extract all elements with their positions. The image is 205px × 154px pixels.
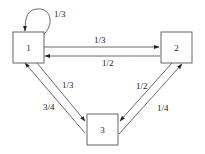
transition-diagram: 1/3 1/3 1/2 1/3 3/4 1/2 1/4 1 2 xyxy=(0,0,205,154)
node-3-label: 3 xyxy=(100,125,105,135)
node-1-label: 1 xyxy=(26,43,31,53)
self-loop-arrow xyxy=(25,9,50,35)
edge-label-1-3: 1/3 xyxy=(62,80,74,90)
edge-label-3-2: 1/4 xyxy=(157,103,169,113)
edge-label-1-2: 1/3 xyxy=(94,35,106,45)
edge-1-to-3: 1/3 xyxy=(37,63,85,121)
edge-1-to-2: 1/3 xyxy=(44,35,159,47)
node-2: 2 xyxy=(161,32,192,63)
edge-3-to-1: 3/4 xyxy=(25,63,85,133)
edge-label-2-1: 1/2 xyxy=(102,58,114,68)
edge-label-3-1: 3/4 xyxy=(43,102,55,112)
edge-label-2-3: 1/2 xyxy=(136,81,148,91)
edge-2-to-1: 1/2 xyxy=(45,56,160,68)
node-3: 3 xyxy=(87,114,118,145)
edge-3-to-2: 1/4 xyxy=(119,64,182,134)
edge-1-to-1: 1/3 xyxy=(25,9,66,35)
node-2-label: 2 xyxy=(174,43,179,53)
node-1: 1 xyxy=(13,32,44,63)
edge-label-1-1: 1/3 xyxy=(54,9,66,19)
